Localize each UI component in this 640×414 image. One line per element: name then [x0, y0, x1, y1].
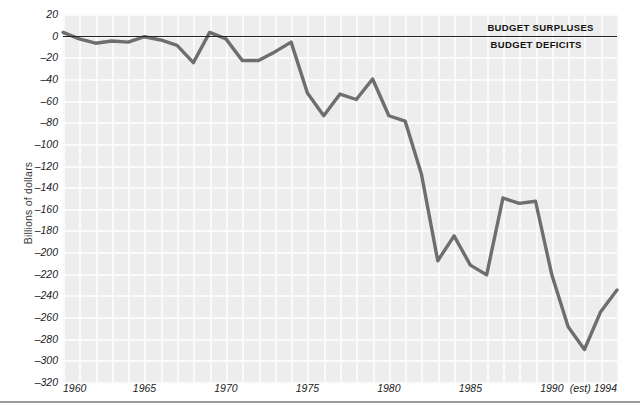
series-layer: [63, 14, 617, 382]
x-axis-tick: 1975: [296, 382, 319, 394]
budget-line: [63, 32, 617, 349]
x-axis-tick: 1965: [133, 382, 156, 394]
y-axis-tick: –280: [2, 333, 58, 345]
y-axis-tick: –180: [2, 224, 58, 236]
y-axis-tick: –260: [2, 311, 58, 323]
y-axis-tick: –120: [2, 160, 58, 172]
y-axis-tick: –300: [2, 354, 58, 366]
y-axis-tick: –160: [2, 203, 58, 215]
y-axis-tick: 20: [2, 8, 58, 20]
budget-surpluses-label: BUDGET SURPLUSES: [487, 22, 593, 33]
budget-deficit-chart: Billions of dollars 200–20–40–60–80–100–…: [0, 0, 640, 414]
zero-reference-line: [63, 36, 617, 38]
y-axis-tick: –100: [2, 138, 58, 150]
y-axis-tick: –80: [2, 116, 58, 128]
plot-area: BUDGET SURPLUSES BUDGET DEFICITS: [63, 14, 617, 382]
y-axis-tick: –220: [2, 268, 58, 280]
x-axis-tick: (est) 1994: [570, 382, 617, 394]
budget-deficits-label: BUDGET DEFICITS: [491, 39, 582, 50]
y-axis-tick: 0: [2, 30, 58, 42]
y-axis-tick: –140: [2, 181, 58, 193]
y-axis-tick: –20: [2, 51, 58, 63]
y-axis-tick: –40: [2, 73, 58, 85]
x-axis-tick: 1990: [540, 382, 563, 394]
x-axis-tick: 1985: [459, 382, 482, 394]
y-axis-tick-labels: 200–20–40–60–80–100–120–140–160–180–200–…: [0, 0, 58, 414]
x-axis-tick: 1980: [377, 382, 400, 394]
y-axis-tick: –60: [2, 95, 58, 107]
x-axis-tick: 1960: [63, 382, 86, 394]
bottom-axis-rule: [0, 401, 640, 403]
y-axis-tick: –200: [2, 246, 58, 258]
x-axis-tick: 1970: [214, 382, 237, 394]
gridline-vertical: [617, 14, 619, 382]
y-axis-tick: –240: [2, 289, 58, 301]
